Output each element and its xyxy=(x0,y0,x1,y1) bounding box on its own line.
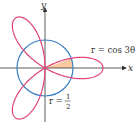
fraction-numerator: 1 xyxy=(66,93,70,101)
y-axis-label: y xyxy=(40,0,47,10)
x-axis-label: x xyxy=(128,63,133,73)
polar-diagram: y x r = cos 3θ r = 1 2 xyxy=(0,0,137,132)
shaded-region xyxy=(45,58,73,68)
circle-equation-label: r = xyxy=(49,96,63,106)
rose-equation-label: r = cos 3θ xyxy=(91,45,135,55)
fraction-denominator: 2 xyxy=(66,103,70,111)
